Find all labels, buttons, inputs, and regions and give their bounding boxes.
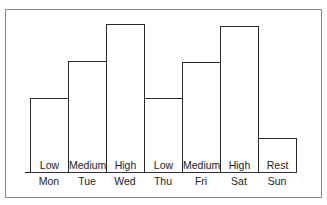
bar-label: Rest — [259, 159, 296, 171]
bar-thu: Low — [144, 98, 183, 173]
bar-wed: High — [106, 24, 145, 173]
bar-label: Low — [31, 159, 68, 171]
bar-sun: Rest — [258, 138, 297, 173]
x-tick-mon: Mon — [30, 175, 68, 187]
bar-fri: Medium — [182, 62, 221, 173]
bar-label: Low — [145, 159, 182, 171]
x-tick-sat: Sat — [220, 175, 258, 187]
x-tick-tue: Tue — [68, 175, 106, 187]
bar-mon: Low — [30, 98, 69, 173]
x-tick-sun: Sun — [258, 175, 296, 187]
x-tick-thu: Thu — [144, 175, 182, 187]
bar-label: Medium — [183, 159, 220, 171]
x-tick-wed: Wed — [106, 175, 144, 187]
bar-label: High — [107, 159, 144, 171]
x-tick-fri: Fri — [182, 175, 220, 187]
x-axis-line — [25, 172, 296, 173]
bar-label: Medium — [69, 159, 106, 171]
bar-sat: High — [220, 26, 259, 173]
bar-label: High — [221, 159, 258, 171]
bar-tue: Medium — [68, 61, 107, 173]
